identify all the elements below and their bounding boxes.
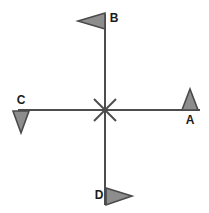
marker-c: C: [13, 93, 29, 133]
triangle-left-icon: [78, 13, 105, 29]
triangle-down-icon: [13, 111, 29, 133]
triangle-up-icon: [182, 89, 198, 110]
marker-d: D: [95, 188, 132, 205]
marker-a-label: A: [186, 113, 195, 127]
marker-c-label: C: [17, 93, 26, 107]
marker-d-label: D: [95, 188, 104, 202]
marker-b-label: B: [110, 11, 119, 25]
diagram-svg: A B C D: [0, 0, 209, 213]
marker-b: B: [78, 11, 119, 29]
vector-diagram-canvas: A B C D: [0, 0, 209, 213]
marker-a: A: [182, 89, 198, 127]
triangle-right-icon: [106, 188, 132, 205]
